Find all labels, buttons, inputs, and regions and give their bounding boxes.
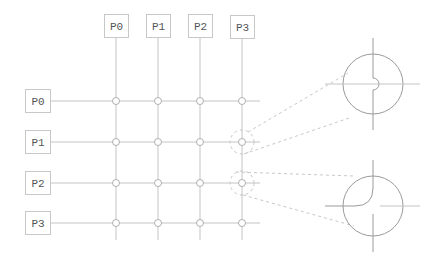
svg-text:P2: P2 (31, 178, 44, 190)
row-label-P1: P1 (26, 131, 51, 154)
svg-text:P0: P0 (31, 96, 44, 108)
rounded-corner-detail (325, 160, 420, 252)
callout-lines (236, 73, 354, 226)
row-label-P3: P3 (26, 212, 51, 235)
svg-text:P2: P2 (194, 21, 207, 33)
row-label-P0: P0 (26, 90, 51, 113)
column-label-P2: P2 (189, 15, 213, 38)
grid-diagram: P0 P1 P2 P3 P0 P1 P2 P3 (0, 0, 441, 257)
column-lines (116, 37, 242, 240)
svg-text:P1: P1 (152, 21, 166, 33)
row-lines (50, 101, 260, 223)
svg-text:P1: P1 (31, 137, 45, 149)
svg-text:P3: P3 (31, 218, 44, 230)
column-label-P1: P1 (147, 15, 171, 38)
column-label-P3: P3 (231, 16, 255, 39)
row-label-P2: P2 (26, 172, 51, 195)
svg-text:P3: P3 (236, 22, 249, 34)
junction-markers (113, 98, 246, 227)
column-label-P0: P0 (105, 15, 129, 38)
crossing-hop-detail (325, 38, 420, 130)
svg-text:P0: P0 (110, 21, 123, 33)
